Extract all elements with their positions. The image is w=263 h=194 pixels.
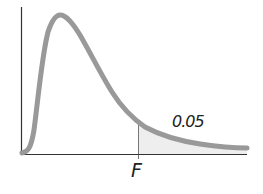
critical-value-label: F [131,159,142,181]
tail-area-label: 0.05 [172,112,204,131]
density-curve [22,15,247,153]
